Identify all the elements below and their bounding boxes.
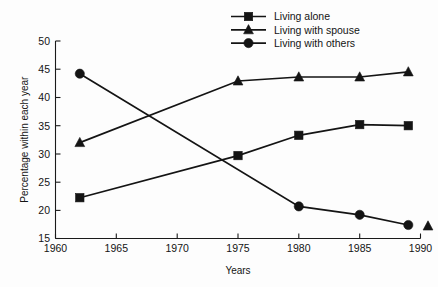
data-point-circle-1962 bbox=[75, 69, 84, 78]
legend-item-living-with-spouse[interactable]: Living with spouse bbox=[231, 24, 360, 36]
legend-label-living-with-others: Living with others bbox=[274, 37, 355, 49]
series-line-living-with-spouse bbox=[80, 72, 409, 143]
line-chart: 50 45 40 35 30 25 20 15 1960 1965 1970 1… bbox=[0, 0, 438, 287]
y-tick-label-45: 45 bbox=[38, 63, 50, 75]
data-point-square-1980 bbox=[295, 131, 303, 139]
legend-label-living-alone: Living alone bbox=[274, 10, 330, 22]
y-axis-tick-labels: 50 45 40 35 30 25 20 15 bbox=[38, 35, 50, 245]
data-point-triangle-1989 bbox=[403, 67, 413, 76]
series-living-alone bbox=[76, 120, 413, 201]
x-tick-label-1970: 1970 bbox=[166, 242, 190, 254]
y-axis-title: Percentage within each year bbox=[19, 76, 30, 203]
series-line-living-alone bbox=[80, 125, 409, 198]
x-axis-tick-labels: 1960 1965 1970 1975 1980 1985 1990 bbox=[44, 242, 433, 254]
x-axis-ticks bbox=[56, 234, 421, 239]
x-tick-label-1985: 1985 bbox=[348, 242, 372, 254]
axis-frame bbox=[56, 41, 421, 239]
legend-item-living-alone[interactable]: Living alone bbox=[231, 10, 330, 22]
annotation-triangle-marker bbox=[423, 221, 433, 230]
legend-marker-circle bbox=[244, 39, 253, 48]
data-point-square-1989 bbox=[404, 122, 412, 130]
x-tick-label-1960: 1960 bbox=[44, 242, 68, 254]
series-living-with-others bbox=[75, 69, 413, 230]
x-axis-title: Years bbox=[225, 265, 250, 276]
data-point-circle-1985 bbox=[355, 210, 364, 219]
y-tick-label-20: 20 bbox=[38, 204, 50, 216]
y-tick-label-25: 25 bbox=[38, 176, 50, 188]
series-living-with-spouse bbox=[75, 67, 413, 147]
y-tick-label-50: 50 bbox=[38, 35, 50, 47]
x-tick-label-1965: 1965 bbox=[105, 242, 129, 254]
y-tick-label-35: 35 bbox=[38, 120, 50, 132]
y-tick-label-40: 40 bbox=[38, 91, 50, 103]
x-tick-label-1975: 1975 bbox=[226, 242, 250, 254]
y-axis-ticks bbox=[56, 41, 61, 239]
x-tick-label-1980: 1980 bbox=[287, 242, 311, 254]
series-line-living-with-others bbox=[80, 74, 409, 225]
data-point-circle-1989 bbox=[404, 220, 413, 229]
legend-marker-square bbox=[244, 12, 252, 20]
legend-label-living-with-spouse: Living with spouse bbox=[274, 24, 360, 36]
chart-figure: 50 45 40 35 30 25 20 15 1960 1965 1970 1… bbox=[0, 0, 438, 287]
data-point-circle-1980 bbox=[294, 202, 303, 211]
y-tick-label-30: 30 bbox=[38, 148, 50, 160]
data-point-square-1962 bbox=[76, 194, 84, 202]
data-point-square-1976 bbox=[234, 151, 242, 159]
legend-item-living-with-others[interactable]: Living with others bbox=[231, 37, 355, 49]
data-point-square-1985 bbox=[356, 120, 364, 128]
chart-legend: Living alone Living with spouse Living w… bbox=[231, 10, 360, 49]
x-tick-label-1990: 1990 bbox=[409, 242, 433, 254]
